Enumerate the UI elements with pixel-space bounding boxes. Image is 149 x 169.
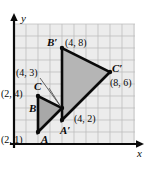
coordinate-geometry-figure: y x B (2, 4) A (2, 1) C (4, 3) B′ (4, 8)… (0, 0, 149, 169)
x-axis-label: x (136, 147, 142, 159)
coord-a-prime: (4, 2) (74, 113, 96, 125)
figure-canvas: y x B (2, 4) A (2, 1) C (4, 3) B′ (4, 8)… (0, 0, 149, 169)
coord-b-prime: (4, 8) (65, 37, 87, 49)
coord-c-prime: (8, 6) (110, 77, 132, 89)
y-axis-label: y (20, 12, 26, 24)
label-c: C (34, 80, 42, 92)
vertex-dot-b-prime (60, 46, 64, 50)
label-b-prime: B′ (46, 36, 57, 48)
label-c-prime: C′ (112, 62, 122, 74)
vertex-dot-c (60, 106, 64, 110)
vertex-dot-a-prime (60, 118, 64, 122)
label-b: B (28, 102, 36, 114)
label-a: A (40, 133, 48, 145)
vertex-dot-a (36, 130, 40, 134)
label-a-prime: A′ (59, 124, 70, 136)
vertex-dot-b (36, 94, 40, 98)
coord-c: (4, 3) (16, 67, 38, 79)
coord-b: (2, 4) (1, 88, 23, 100)
y-axis-arrowhead (10, 13, 17, 21)
coord-a: (2, 1) (1, 134, 23, 146)
